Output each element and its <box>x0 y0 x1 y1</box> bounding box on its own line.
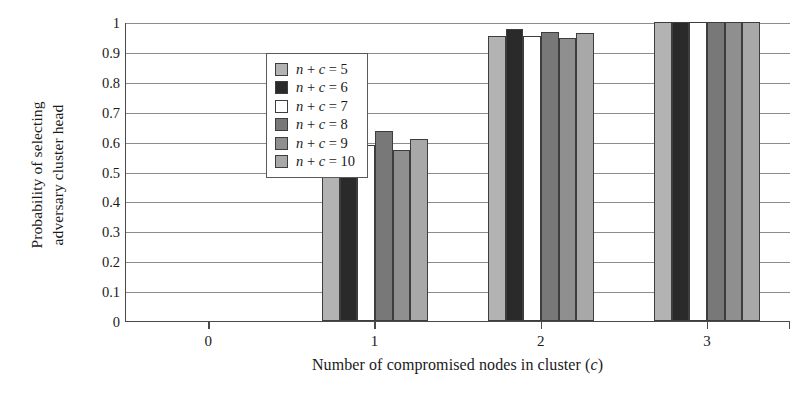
bar-slot <box>725 23 743 321</box>
y-tick-label: 0.8 <box>76 74 120 91</box>
legend-label: n + c = 9 <box>296 135 348 152</box>
bar-slot <box>506 23 524 321</box>
x-tick-label: 1 <box>291 333 457 350</box>
legend-item[interactable]: n + c = 7 <box>275 97 355 116</box>
y-tick-label: 0.4 <box>76 194 120 211</box>
bar[interactable] <box>393 150 411 321</box>
bar[interactable] <box>654 22 672 321</box>
bar-slot <box>393 23 411 321</box>
y-tick-label: 0.7 <box>76 104 120 121</box>
legend-label: n + c = 10 <box>296 153 355 170</box>
bar[interactable] <box>559 38 577 321</box>
bar[interactable] <box>488 36 506 321</box>
bar[interactable] <box>672 22 690 321</box>
legend-item[interactable]: n + c = 9 <box>275 134 355 153</box>
legend-swatch-icon <box>275 137 288 150</box>
legend-item[interactable]: n + c = 10 <box>275 153 355 172</box>
legend-item[interactable]: n + c = 5 <box>275 60 355 79</box>
y-tick-label: 1 <box>76 15 120 32</box>
x-axis-end-tick <box>789 322 790 329</box>
y-tick-label: 0.9 <box>76 44 120 61</box>
x-axis-title: Number of compromised nodes in cluster (… <box>125 356 790 374</box>
bar-slot <box>244 23 262 321</box>
bar-slot <box>523 23 541 321</box>
y-tick-label: 0.6 <box>76 134 120 151</box>
bar-slot <box>156 23 174 321</box>
plot-area: n + c = 5n + c = 6n + c = 7n + c = 8n + … <box>125 23 790 322</box>
legend-label: n + c = 7 <box>296 98 348 115</box>
legend-item[interactable]: n + c = 6 <box>275 79 355 98</box>
y-tick-label: 0.2 <box>76 254 120 271</box>
legend-label: n + c = 8 <box>296 116 348 133</box>
x-tick-mark <box>707 322 708 329</box>
y-axis-title-line-2: adversary cluster head <box>48 105 69 246</box>
legend-swatch-icon <box>275 63 288 76</box>
bar-slot <box>576 23 594 321</box>
bar[interactable] <box>576 33 594 321</box>
bar[interactable] <box>725 22 743 321</box>
x-tick-mark <box>541 322 542 329</box>
bar-slot <box>488 23 506 321</box>
x-tick-label: 0 <box>125 333 291 350</box>
bar-slot <box>541 23 559 321</box>
y-axis-title: Probability of selecting adversary clust… <box>18 5 78 345</box>
y-axis-title-line-1: Probability of selecting <box>27 101 48 248</box>
bar[interactable] <box>742 22 760 321</box>
y-tick-label: 0 <box>76 314 120 331</box>
legend-swatch-icon <box>275 100 288 113</box>
bar[interactable] <box>707 22 725 321</box>
y-tick-label: 0.1 <box>76 284 120 301</box>
y-tick-label: 0.5 <box>76 164 120 181</box>
bar-groups <box>126 23 790 321</box>
legend-swatch-icon <box>275 81 288 94</box>
chart-figure: Probability of selecting adversary clust… <box>0 0 803 404</box>
bar-group <box>624 23 790 321</box>
x-tick-mark <box>208 322 209 329</box>
bar-slot <box>174 23 192 321</box>
legend: n + c = 5n + c = 6n + c = 7n + c = 8n + … <box>266 53 368 178</box>
bar-slot <box>227 23 245 321</box>
y-tick-label: 0.3 <box>76 224 120 241</box>
bar[interactable] <box>410 139 428 321</box>
x-tick-label: 2 <box>458 333 624 350</box>
bar-slot <box>654 23 672 321</box>
bar[interactable] <box>523 36 541 321</box>
x-axis-title-tail: ) <box>598 356 603 373</box>
x-axis-title-italic-c: c <box>590 356 597 373</box>
x-tick-label: 3 <box>624 333 790 350</box>
bar-slot <box>689 23 707 321</box>
bar[interactable] <box>541 32 559 321</box>
bar[interactable] <box>689 22 707 321</box>
legend-label: n + c = 5 <box>296 61 348 78</box>
legend-swatch-icon <box>275 118 288 131</box>
legend-label: n + c = 6 <box>296 79 348 96</box>
x-axis-title-main: Number of compromised nodes in cluster ( <box>312 356 591 373</box>
bar-slot <box>672 23 690 321</box>
bar[interactable] <box>506 29 524 321</box>
bar-group <box>458 23 624 321</box>
bar-slot <box>375 23 393 321</box>
bar[interactable] <box>375 131 393 321</box>
bar-slot <box>707 23 725 321</box>
y-axis-tick-labels: 10.90.80.70.60.50.40.30.20.10 <box>76 0 120 404</box>
bar-slot <box>209 23 227 321</box>
bar-slot <box>742 23 760 321</box>
bar-slot <box>410 23 428 321</box>
bar-slot <box>191 23 209 321</box>
bar-slot <box>559 23 577 321</box>
legend-item[interactable]: n + c = 8 <box>275 116 355 135</box>
x-tick-mark <box>374 322 375 329</box>
legend-swatch-icon <box>275 155 288 168</box>
